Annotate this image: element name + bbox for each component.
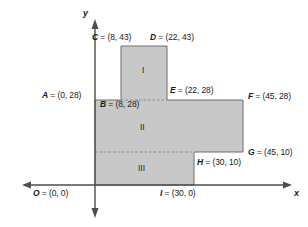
point-label-C: C = (8, 43) xyxy=(92,33,131,42)
x-axis-arrow-right xyxy=(283,182,292,189)
point-label-H: H = (30, 10) xyxy=(197,158,241,167)
point-label-D: D = (22, 43) xyxy=(150,33,194,42)
point-label-B: B = (8, 28) xyxy=(100,100,139,109)
x-axis-arrow-left xyxy=(22,182,31,189)
region-label-III: III xyxy=(138,164,145,173)
point-label-O: O = (0, 0) xyxy=(33,189,68,198)
point-label-E: E = (22, 28) xyxy=(170,86,213,95)
y-axis-arrow-down xyxy=(92,208,99,218)
point-label-A: A = (0, 28) xyxy=(42,91,81,100)
point-label-G: G = (45, 10) xyxy=(248,148,292,157)
y-axis-arrow-up xyxy=(92,19,99,29)
x-axis-label: x xyxy=(294,189,299,198)
region-label-I: I xyxy=(142,66,144,75)
region-label-II: II xyxy=(140,123,145,132)
y-axis-label: y xyxy=(83,9,88,18)
coordinate-geometry-figure: y x C = (8, 43) D = (22, 43) A = (0, 28)… xyxy=(0,0,308,227)
point-label-F: F = (45, 28) xyxy=(248,92,291,101)
point-label-I: I = (30, 0) xyxy=(160,189,196,198)
